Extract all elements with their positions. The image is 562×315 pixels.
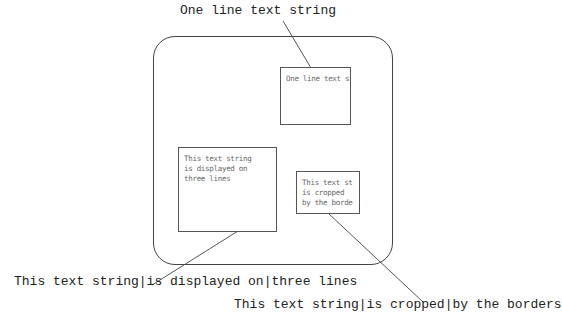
text-box-three-lines-text: This text string is displayed on three l… [179,148,276,184]
text-box-cropped-text: This text st is cropped by the borde [297,172,359,208]
label-bottom-left: This text string|is displayed on|three l… [14,274,357,289]
text-box-cropped: This text st is cropped by the borde [296,171,360,214]
text-box-one-line-text: One line text string [281,68,350,84]
text-box-one-line: One line text string [280,67,351,125]
label-bottom-right: This text string|is cropped|by the borde… [234,297,562,312]
text-box-three-lines: This text string is displayed on three l… [178,147,277,232]
label-top: One line text string [180,3,336,18]
